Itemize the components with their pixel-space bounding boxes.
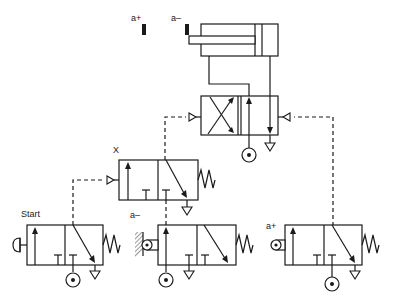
spring-icon	[236, 235, 253, 253]
pilot-line-start-to-x	[73, 180, 102, 225]
spring-icon	[198, 170, 215, 188]
exhaust-icon	[184, 271, 194, 279]
pneumatic-circuit-diagram: a+ a–	[0, 0, 396, 307]
line-cylinder-left-port	[209, 56, 249, 96]
start-valve: Start	[13, 209, 120, 265]
spring-icon	[103, 235, 120, 253]
label-a-minus-top: a–	[171, 13, 181, 23]
pilot-triangle-right-icon	[283, 113, 290, 121]
pilot-line-a-plus-to-main	[294, 117, 333, 226]
double-acting-cylinder	[185, 24, 278, 56]
label-start: Start	[21, 209, 41, 219]
sensor-marker-a-plus: a+	[131, 13, 146, 35]
pilot-triangle-x-icon	[107, 176, 114, 184]
pilot-triangle-left-icon	[189, 113, 196, 121]
label-a-minus-valve: a–	[130, 210, 140, 220]
exhaust-icon	[265, 143, 275, 151]
exhaust-icon	[350, 271, 360, 279]
label-a-plus-top: a+	[131, 13, 141, 23]
limit-valve-a-minus: a–	[130, 210, 253, 265]
label-a-plus-valve: a+	[266, 221, 276, 231]
spring-icon	[362, 235, 379, 253]
limit-valve-a-plus: a+	[266, 221, 379, 265]
pilot-line-x-to-main	[165, 117, 186, 160]
exhaust-icon	[90, 271, 100, 279]
push-button-icon[interactable]	[13, 238, 20, 252]
label-x: X	[113, 145, 119, 155]
valve-x: X	[107, 145, 215, 200]
exhaust-icon	[182, 207, 192, 215]
main-5-2-valve	[189, 96, 290, 135]
